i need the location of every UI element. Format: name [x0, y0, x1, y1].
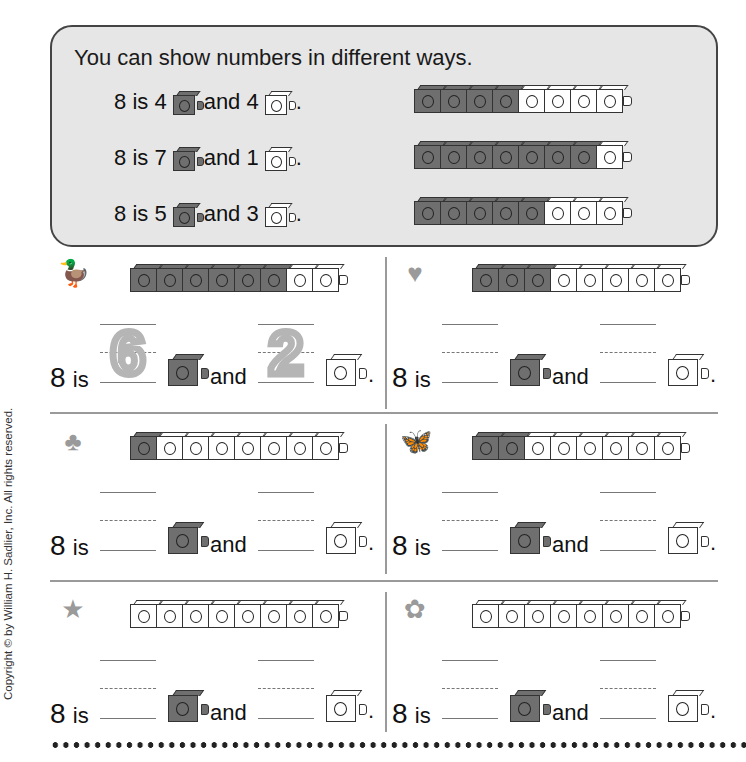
light-cube [312, 264, 339, 292]
answer-blank-light[interactable] [600, 324, 656, 386]
light-cube [576, 264, 603, 292]
dark-cube [208, 264, 235, 292]
light-cube-icon [265, 91, 290, 115]
light-cube [544, 85, 571, 113]
word-is: is [415, 367, 431, 392]
dark-cube [234, 264, 261, 292]
light-cube-icon [668, 690, 702, 722]
answer-sentence: 8 isand. [392, 320, 728, 380]
answer-blank-dark[interactable] [100, 492, 156, 554]
cube-train [130, 264, 348, 292]
word-is: is [73, 703, 89, 728]
total-number: 8 [50, 530, 66, 561]
word-and: and [204, 89, 241, 115]
cube-peg [681, 443, 690, 453]
light-cube-icon [326, 522, 360, 554]
example-sentence: 8 is 5and 3. [114, 201, 302, 227]
answer-sentence: 8 isand. [50, 488, 386, 548]
dark-cube [466, 141, 493, 169]
butterfly-icon: 🦋 [400, 428, 430, 454]
example-sentence: 8 is 7and 1. [114, 145, 302, 171]
example-row: 8 is 4and 4. [52, 77, 716, 125]
light-cube-icon [265, 147, 290, 171]
cube-peg [339, 275, 348, 285]
answer-blank-dark[interactable] [442, 324, 498, 386]
light-cube [628, 264, 655, 292]
dark-cube [472, 432, 499, 460]
dark-cube [440, 141, 467, 169]
cube-train [414, 141, 632, 169]
dark-count: 7 [154, 145, 166, 171]
dark-cube [498, 432, 525, 460]
light-cube-icon [668, 354, 702, 386]
dark-cube [414, 85, 441, 113]
cube-train [414, 85, 632, 113]
answer-blank-light[interactable] [258, 492, 314, 554]
answer-sentence: 8 isand. [392, 488, 728, 548]
period: . [368, 362, 374, 388]
cube-train [472, 600, 690, 628]
clover-icon: ♣ [58, 428, 88, 454]
copyright-text: Copyright © by William H. Sadlier, Inc. … [2, 410, 14, 700]
light-count: 3 [246, 201, 258, 227]
exercise-cell: ★8 isand. [50, 588, 386, 748]
word-and: and [552, 364, 589, 390]
answer-blank-dark[interactable] [442, 492, 498, 554]
answer-blank-dark[interactable]: 6 [100, 324, 156, 386]
answer-blank-light[interactable] [600, 660, 656, 722]
word-is: is [132, 201, 148, 227]
light-cube [234, 600, 261, 628]
duck-icon: 🦆 [58, 260, 88, 286]
dark-cube [182, 264, 209, 292]
answer-sentence: 8 isand. [50, 656, 386, 716]
light-cube [156, 600, 183, 628]
light-cube [260, 600, 287, 628]
light-cube [628, 600, 655, 628]
word-and: and [552, 700, 589, 726]
dark-cube [518, 141, 545, 169]
exercise-cell: 🦆8 is6and2. [50, 252, 386, 412]
light-cube [576, 600, 603, 628]
row-divider [50, 580, 718, 582]
dark-cube [130, 432, 157, 460]
dark-count: 5 [154, 201, 166, 227]
heart-icon: ♥ [400, 260, 430, 286]
dark-cube [414, 141, 441, 169]
panel-title: You can show numbers in different ways. [74, 45, 473, 71]
period: . [368, 698, 374, 724]
light-cube [208, 432, 235, 460]
cube-train [472, 432, 690, 460]
light-cube [518, 85, 545, 113]
answer-blank-dark[interactable] [100, 660, 156, 722]
dark-cube-icon [168, 690, 202, 722]
star-icon: ★ [58, 596, 88, 622]
intro-panel: You can show numbers in different ways. … [50, 25, 718, 247]
exercise-cell: ✿8 isand. [392, 588, 728, 748]
word-is: is [132, 89, 148, 115]
light-cube [234, 432, 261, 460]
total-number: 8 [392, 362, 408, 393]
word-is: is [415, 703, 431, 728]
light-cube [596, 197, 623, 225]
dark-cube-icon [173, 203, 198, 227]
answer-blank-light[interactable] [600, 492, 656, 554]
light-cube [524, 432, 551, 460]
dark-cube-icon [173, 91, 198, 115]
word-and: and [204, 145, 241, 171]
light-cube [130, 600, 157, 628]
lead-text: 8 is [392, 362, 431, 394]
total-number: 8 [392, 698, 408, 729]
answer-blank-dark[interactable] [442, 660, 498, 722]
dark-cube-icon [510, 354, 544, 386]
light-cube [312, 600, 339, 628]
cube-train [472, 264, 690, 292]
light-cube-icon [668, 522, 702, 554]
answer-blank-light[interactable] [258, 660, 314, 722]
cube-peg [681, 275, 690, 285]
light-count: 4 [246, 89, 258, 115]
word-is: is [415, 535, 431, 560]
light-cube-icon [326, 354, 360, 386]
light-cube [570, 85, 597, 113]
dark-cube-icon [168, 522, 202, 554]
answer-blank-light[interactable]: 2 [258, 324, 314, 386]
